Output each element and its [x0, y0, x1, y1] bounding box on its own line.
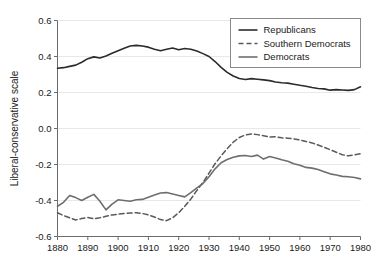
x-tick-label: 1930	[198, 242, 219, 253]
legend-label: Southern Democrats	[264, 38, 351, 49]
y-tick-label: 0.2	[38, 87, 51, 98]
y-axis-ticks: -0.6-0.4-0.20.00.20.40.6	[35, 15, 57, 242]
chart-figure: -0.6-0.4-0.20.00.20.40.6 188018901900191…	[0, 0, 380, 266]
x-tick-label: 1980	[350, 242, 371, 253]
y-tick-label: 0.0	[38, 123, 51, 134]
y-tick-label: -0.4	[35, 195, 51, 206]
y-tick-label: -0.2	[35, 159, 51, 170]
y-axis-title: Liberal-conservative scale	[9, 70, 20, 186]
y-axis-title-text: Liberal-conservative scale	[9, 70, 20, 186]
chart-canvas: -0.6-0.4-0.20.00.20.40.6 188018901900191…	[0, 0, 380, 266]
x-tick-label: 1900	[108, 242, 129, 253]
x-tick-label: 1920	[168, 242, 189, 253]
y-tick-label: -0.6	[35, 231, 51, 242]
x-tick-label: 1910	[138, 242, 159, 253]
x-tick-label: 1890	[77, 242, 98, 253]
x-tick-label: 1940	[229, 242, 250, 253]
x-tick-label: 1880	[47, 242, 68, 253]
data-series	[58, 45, 361, 220]
chart-legend: RepublicansSouthern DemocratsDemocrats	[231, 19, 361, 68]
x-axis-ticks: 1880189019001910192019301940195019601970…	[47, 237, 371, 253]
x-tick-label: 1950	[259, 242, 280, 253]
legend-label: Republicans	[264, 24, 317, 35]
x-tick-label: 1960	[289, 242, 310, 253]
series-line	[58, 155, 361, 210]
x-tick-label: 1970	[320, 242, 341, 253]
y-tick-label: 0.4	[38, 51, 51, 62]
y-tick-label: 0.6	[38, 15, 51, 26]
legend-label: Democrats	[264, 51, 310, 62]
